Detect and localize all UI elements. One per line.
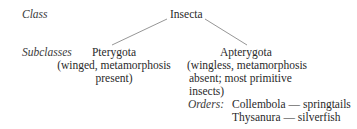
node-apterygota-name: Apterygota [220, 46, 272, 59]
node-pterygota: Pterygota (winged, metamorphosis present… [52, 46, 176, 85]
order-collembola: Collembola — springtails [232, 98, 351, 111]
row-label-class: Class [22, 8, 48, 21]
orders-label: Orders: [188, 98, 224, 111]
node-pterygota-desc-line-1: (winged, metamorphosis [52, 59, 176, 72]
edge-insecta-apterygota [205, 19, 247, 45]
node-apterygota-description: (wingless, metamorphosis absent; most pr… [187, 59, 307, 98]
node-pterygota-desc-line-2: present) [52, 72, 176, 85]
node-apterygota-desc-line-2: absent; most primitive [187, 72, 307, 85]
order-thysanura: Thysanura — silverfish [232, 111, 341, 124]
node-insecta: Insecta [170, 8, 203, 21]
node-apterygota-desc-line-3: insects) [187, 85, 307, 98]
edge-insecta-pterygota [112, 19, 167, 45]
node-pterygota-name: Pterygota [52, 46, 176, 59]
node-apterygota-desc-line-1: (wingless, metamorphosis [187, 59, 307, 72]
